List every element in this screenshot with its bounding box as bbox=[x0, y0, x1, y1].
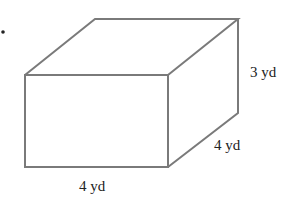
top-face bbox=[25, 19, 238, 75]
bullet-dot bbox=[1, 30, 5, 34]
prism-edges bbox=[25, 19, 238, 167]
front-face bbox=[25, 75, 168, 167]
depth-label: 4 yd bbox=[214, 137, 241, 153]
height-label: 3 yd bbox=[250, 64, 277, 80]
prism-diagram: 3 yd 4 yd 4 yd bbox=[0, 0, 287, 200]
width-label: 4 yd bbox=[79, 178, 106, 194]
